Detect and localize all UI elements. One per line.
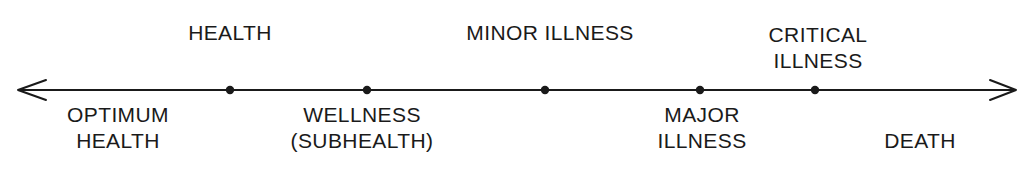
label-line: ILLNESS <box>769 48 868 74</box>
axis-point-dot <box>226 86 234 94</box>
label-line: WELLNESS <box>291 102 434 128</box>
label-critical-illness: CRITICAL ILLNESS <box>769 22 868 74</box>
label-line: HEALTH <box>67 128 169 154</box>
label-major-illness: MAJOR ILLNESS <box>657 102 746 154</box>
label-wellness-subhealth: WELLNESS (SUBHEALTH) <box>291 102 434 154</box>
axis-point-dot <box>696 86 704 94</box>
label-line: ILLNESS <box>657 128 746 154</box>
axis-point-dot <box>541 86 549 94</box>
label-line: MAJOR <box>657 102 746 128</box>
axis-point-dot <box>363 86 371 94</box>
health-continuum-diagram: HEALTH MINOR ILLNESS CRITICAL ILLNESS OP… <box>0 0 1031 171</box>
label-line: HEALTH <box>188 20 272 46</box>
label-line: OPTIMUM <box>67 102 169 128</box>
label-line: DEATH <box>884 128 956 154</box>
label-health: HEALTH <box>188 20 272 46</box>
label-optimum-health: OPTIMUM HEALTH <box>67 102 169 154</box>
label-line: (SUBHEALTH) <box>291 128 434 154</box>
axis-point-dot <box>811 86 819 94</box>
label-minor-illness: MINOR ILLNESS <box>466 20 633 46</box>
label-line: CRITICAL <box>769 22 868 48</box>
label-line: MINOR ILLNESS <box>466 20 633 46</box>
label-death: DEATH <box>884 128 956 154</box>
